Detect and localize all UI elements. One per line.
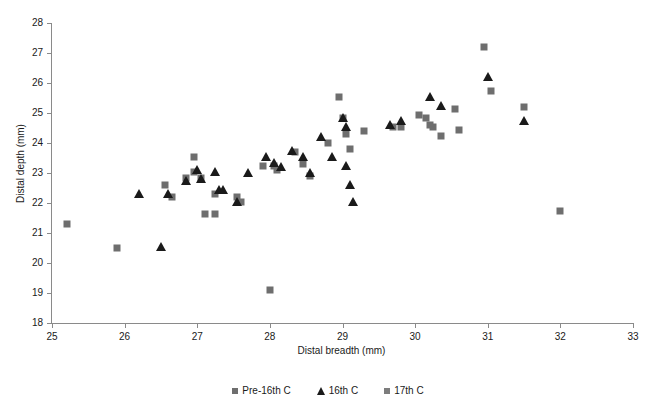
data-point xyxy=(385,120,395,129)
y-axis-tick-label: 25 xyxy=(32,108,43,118)
x-axis-tick-label: 32 xyxy=(555,332,566,342)
legend-item-label: Pre-16th C xyxy=(242,385,290,396)
y-axis-tick-label: 18 xyxy=(32,318,43,328)
legend-triangle-icon xyxy=(317,387,325,395)
data-point xyxy=(196,174,206,183)
data-point xyxy=(430,123,437,130)
x-axis-tick xyxy=(343,323,344,328)
data-point xyxy=(361,128,368,135)
data-point xyxy=(212,210,219,217)
legend-item-label: 17th C xyxy=(394,385,423,396)
data-point xyxy=(259,162,266,169)
y-axis-tick xyxy=(47,113,52,114)
x-axis-tick xyxy=(415,323,416,328)
data-point xyxy=(425,92,435,101)
y-axis-tick xyxy=(47,173,52,174)
y-axis-tick-label: 22 xyxy=(32,198,43,208)
data-point xyxy=(345,180,355,189)
y-axis-tick-label: 20 xyxy=(32,258,43,268)
data-point xyxy=(156,242,166,251)
data-point xyxy=(243,168,253,177)
data-point xyxy=(190,153,197,160)
data-point xyxy=(327,152,337,161)
y-axis-tick xyxy=(47,143,52,144)
legend-item: 16th C xyxy=(317,385,358,396)
scatter-chart: 1819202122232425262728252627282930313233… xyxy=(0,0,656,410)
y-axis-tick xyxy=(47,233,52,234)
legend-item: Pre-16th C xyxy=(232,385,290,396)
y-axis-tick xyxy=(47,263,52,264)
x-axis-tick-label: 28 xyxy=(264,332,275,342)
data-point xyxy=(218,185,228,194)
data-point xyxy=(452,105,459,112)
data-point xyxy=(134,189,144,198)
data-point xyxy=(423,114,430,121)
x-axis-tick xyxy=(197,323,198,328)
x-axis-tick-label: 26 xyxy=(119,332,130,342)
x-axis-tick-label: 25 xyxy=(46,332,57,342)
y-axis-tick-label: 26 xyxy=(32,78,43,88)
y-axis-tick-label: 21 xyxy=(32,228,43,238)
x-axis-tick-label: 27 xyxy=(192,332,203,342)
data-point xyxy=(481,44,488,51)
data-point xyxy=(521,104,528,111)
y-axis-title: Distal depth (mm) xyxy=(15,94,26,234)
legend-item: 17th C xyxy=(384,385,423,396)
y-axis-tick-label: 27 xyxy=(32,48,43,58)
data-point xyxy=(343,131,350,138)
y-axis-tick-label: 24 xyxy=(32,138,43,148)
data-point xyxy=(341,161,351,170)
legend-square-icon xyxy=(384,388,390,394)
data-point xyxy=(346,146,353,153)
y-axis-tick xyxy=(47,23,52,24)
y-axis-tick xyxy=(47,53,52,54)
y-axis-tick xyxy=(47,83,52,84)
y-axis-tick-label: 28 xyxy=(32,18,43,28)
x-axis-tick-label: 31 xyxy=(482,332,493,342)
data-point xyxy=(415,111,422,118)
data-point xyxy=(181,176,191,185)
data-point xyxy=(266,287,273,294)
data-point xyxy=(276,162,286,171)
y-axis-tick xyxy=(47,293,52,294)
data-point xyxy=(335,93,342,100)
x-axis-tick xyxy=(52,323,53,328)
data-point xyxy=(114,245,121,252)
x-axis-tick xyxy=(633,323,634,328)
x-axis-tick-label: 29 xyxy=(337,332,348,342)
data-point xyxy=(436,101,446,110)
y-axis-tick-label: 19 xyxy=(32,288,43,298)
data-point xyxy=(557,207,564,214)
chart-legend: Pre-16th C16th C17th C xyxy=(0,385,656,396)
data-point xyxy=(210,167,220,176)
x-axis-tick-label: 33 xyxy=(627,332,638,342)
y-axis-tick-label: 23 xyxy=(32,168,43,178)
plot-area: 1819202122232425262728252627282930313233 xyxy=(51,23,633,324)
data-point xyxy=(483,72,493,81)
data-point xyxy=(232,197,242,206)
data-point xyxy=(396,116,406,125)
data-point xyxy=(299,161,306,168)
data-point xyxy=(488,87,495,94)
data-point xyxy=(192,165,202,174)
data-point xyxy=(341,122,351,131)
x-axis-tick xyxy=(125,323,126,328)
data-point xyxy=(163,189,173,198)
x-axis-tick xyxy=(488,323,489,328)
data-point xyxy=(161,182,168,189)
data-point xyxy=(348,197,358,206)
data-point xyxy=(201,210,208,217)
x-axis-tick xyxy=(560,323,561,328)
data-point xyxy=(437,132,444,139)
data-point xyxy=(298,152,308,161)
data-point xyxy=(305,168,315,177)
data-point xyxy=(519,116,529,125)
data-point xyxy=(455,126,462,133)
legend-square-icon xyxy=(232,388,238,394)
x-axis-title: Distal breadth (mm) xyxy=(51,345,632,356)
data-point xyxy=(316,132,326,141)
x-axis-tick xyxy=(270,323,271,328)
y-axis-tick xyxy=(47,203,52,204)
data-point xyxy=(63,221,70,228)
data-point xyxy=(338,113,348,122)
